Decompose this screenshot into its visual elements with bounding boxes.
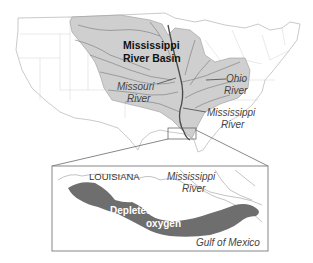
missouri-label-line2: River <box>127 94 150 104</box>
ohio-label-line1: Ohio <box>226 74 247 84</box>
basin-label-line1: Mississippi <box>123 40 180 51</box>
mississippi-label-line1: Mississippi <box>207 108 255 118</box>
louisiana-label: LOUISIANA <box>89 172 140 182</box>
inset-river-label-line1: Mississippi <box>167 172 215 182</box>
hypoxia-label-line2: oxygen <box>146 219 181 229</box>
gulf-label: Gulf of Mexico <box>196 238 260 248</box>
missouri-label-line1: Missouri <box>117 82 154 92</box>
mississippi-label-line2: River <box>221 120 244 130</box>
hypoxia-label-line1: Depleted <box>110 206 152 216</box>
ohio-label-line2: River <box>224 86 247 96</box>
basin-label-line2: River Basin <box>123 53 181 64</box>
inset-river-label-line2: River <box>182 184 205 194</box>
